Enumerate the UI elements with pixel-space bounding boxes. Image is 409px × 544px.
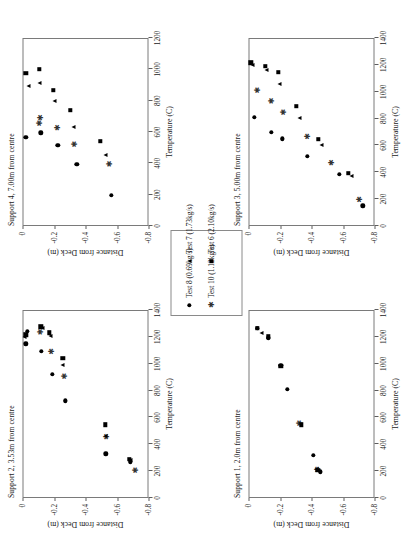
x-tick-label: 0 (379, 224, 387, 228)
y-tick (374, 226, 375, 230)
legend-triangle-marker (187, 259, 191, 263)
star-marker: ✱ (280, 110, 286, 116)
legend: Test 8 (0.69kg/s)✱Test 10 (1.12kg/s)Test… (170, 230, 242, 316)
legend-label: Test 8 (0.69kg/s) (185, 248, 194, 298)
x-tick-label: 1200 (379, 58, 387, 72)
y-tick-label: -0.2 (276, 232, 284, 243)
x-tick (374, 64, 378, 65)
triangle-marker (297, 116, 301, 120)
x-tick-label: 1000 (379, 85, 387, 99)
y-tick (311, 226, 312, 230)
legend-circle-marker (187, 303, 191, 307)
star-marker: ✱ (356, 197, 362, 203)
square-marker (346, 171, 350, 175)
square-marker (276, 70, 280, 74)
y-tick-label: 0 (244, 232, 252, 236)
circle-marker (269, 130, 273, 134)
star-marker: ✱ (268, 98, 274, 104)
triangle-marker (277, 82, 281, 86)
x-tick-label: 400 (379, 167, 387, 178)
legend-star-marker: ✱ (208, 302, 214, 308)
y-tick (248, 226, 249, 230)
circle-marker (360, 204, 364, 208)
x-tick (374, 118, 378, 119)
triangle-marker (319, 143, 323, 147)
x-axis-title: Temperature (C) (390, 106, 399, 158)
x-tick (374, 198, 378, 199)
y-tick-label: -0.6 (339, 232, 347, 243)
square-marker (262, 64, 266, 68)
y-tick (343, 226, 344, 230)
star-marker: ✱ (254, 87, 260, 93)
x-tick-label: 1400 (379, 31, 387, 45)
figure-canvas: Support 2, 3.53m from centre020040060080… (0, 0, 409, 544)
square-marker (248, 61, 252, 65)
y-tick-label: -0.8 (370, 232, 378, 243)
x-tick (374, 144, 378, 145)
x-tick-label: 200 (379, 194, 387, 205)
y-tick (280, 226, 281, 230)
legend-square-marker (209, 259, 213, 263)
x-tick-label: 600 (379, 140, 387, 151)
square-marker (316, 137, 320, 141)
y-tick-label: -0.4 (307, 232, 315, 243)
x-tick (374, 171, 378, 172)
circle-marker (305, 154, 309, 158)
square-marker (294, 104, 298, 108)
legend-label: Test 6 (2.10kg/s) (207, 204, 216, 254)
circle-marker (251, 115, 255, 119)
panel-title-support-3: Support 3, 5.00m from centre (232, 133, 241, 226)
circle-marker (280, 137, 284, 141)
circle-marker (336, 172, 340, 176)
x-tick (374, 91, 378, 92)
x-tick (374, 37, 378, 38)
star-marker: ✱ (328, 160, 334, 166)
star-marker: ✱ (304, 134, 310, 140)
x-tick-label: 800 (379, 113, 387, 124)
y-axis-title: Distance from Deck (m) (273, 248, 349, 257)
legend-label: Test 7 (1.73kg/s) (185, 204, 194, 254)
